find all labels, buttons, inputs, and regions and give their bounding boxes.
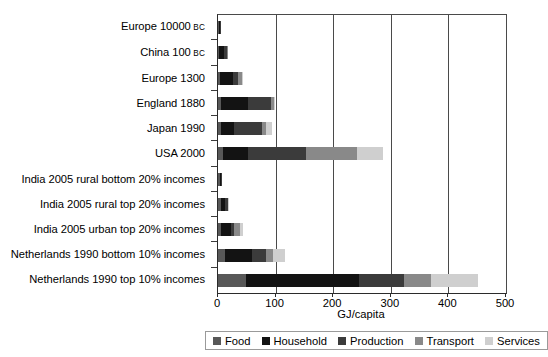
category-label: India 2005 urban top 20% incomes bbox=[34, 223, 205, 236]
bar-segment-transport bbox=[234, 223, 241, 236]
bar-row bbox=[218, 173, 506, 186]
bar-segment-services bbox=[273, 249, 285, 262]
category-axis-labels: Europe 10000 BCChina 100 BCEurope 1300En… bbox=[0, 14, 211, 292]
category-label-era: BC bbox=[191, 49, 205, 58]
x-axis: 0100200300400500 bbox=[217, 293, 505, 309]
stacked-bar bbox=[218, 21, 221, 34]
stacked-bar bbox=[218, 173, 222, 186]
bar-segment-services bbox=[266, 122, 272, 135]
bar-segment-production bbox=[252, 249, 266, 262]
category-label: USA 2000 bbox=[155, 147, 205, 160]
legend-label: Food bbox=[225, 335, 251, 347]
legend-swatch-icon bbox=[213, 337, 221, 345]
bar-segment-transport bbox=[306, 147, 358, 160]
bar-segment-services bbox=[242, 72, 243, 85]
category-label: India 2005 rural bottom 20% incomes bbox=[21, 173, 205, 186]
bar-segment-transport bbox=[266, 249, 273, 262]
category-label: Europe 1300 bbox=[141, 72, 205, 85]
bar-row bbox=[218, 198, 506, 211]
category-label-text: England 1880 bbox=[137, 97, 205, 109]
legend-item-production[interactable]: Production bbox=[338, 335, 404, 347]
bar-segment-production bbox=[234, 122, 262, 135]
bar-row bbox=[218, 223, 506, 236]
bar-segment-transport bbox=[227, 46, 228, 59]
bar-segment-household bbox=[221, 122, 234, 135]
legend-label: Household bbox=[274, 335, 328, 347]
category-label: England 1880 bbox=[137, 97, 205, 110]
legend-swatch-icon bbox=[485, 337, 493, 345]
bar-row bbox=[218, 274, 506, 287]
legend-label: Transport bbox=[427, 335, 474, 347]
legend-item-services[interactable]: Services bbox=[485, 335, 540, 347]
stacked-bar bbox=[218, 46, 227, 59]
bar-row bbox=[218, 249, 506, 262]
stacked-bar bbox=[218, 223, 243, 236]
bar-row bbox=[218, 122, 506, 135]
bars-container bbox=[218, 15, 506, 293]
x-axis-title: GJ/capita bbox=[217, 308, 505, 320]
legend-label: Services bbox=[497, 335, 540, 347]
bar-row bbox=[218, 72, 506, 85]
bar-segment-production bbox=[220, 21, 221, 34]
legend-item-household[interactable]: Household bbox=[262, 335, 328, 347]
category-label-text: India 2005 rural top 20% incomes bbox=[40, 198, 205, 210]
legend-label: Production bbox=[350, 335, 404, 347]
stacked-bar bbox=[218, 198, 229, 211]
stacked-bar bbox=[218, 72, 243, 85]
bar-row bbox=[218, 46, 506, 59]
bar-segment-food bbox=[218, 274, 246, 287]
legend-item-transport[interactable]: Transport bbox=[415, 335, 474, 347]
stacked-bar bbox=[218, 274, 478, 287]
legend-swatch-icon bbox=[262, 337, 270, 345]
category-label-text: India 2005 rural bottom 20% incomes bbox=[21, 173, 205, 185]
category-label-text: India 2005 urban top 20% incomes bbox=[34, 223, 205, 235]
stacked-bar bbox=[218, 97, 275, 110]
bar-segment-transport bbox=[404, 274, 430, 287]
bar-segment-production bbox=[248, 97, 271, 110]
category-label: India 2005 rural top 20% incomes bbox=[40, 198, 205, 211]
bar-segment-services bbox=[228, 198, 229, 211]
category-label: Netherlands 1990 top 10% incomes bbox=[29, 273, 205, 286]
bar-row bbox=[218, 21, 506, 34]
category-label-text: USA 2000 bbox=[155, 147, 205, 159]
stacked-bar bbox=[218, 122, 272, 135]
plot-area bbox=[217, 14, 507, 294]
bar-row bbox=[218, 97, 506, 110]
legend-swatch-icon bbox=[415, 337, 423, 345]
category-label-text: Europe 1300 bbox=[141, 72, 205, 84]
bar-segment-household bbox=[223, 147, 248, 160]
chart-legend: FoodHouseholdProductionTransportServices bbox=[205, 331, 548, 350]
bar-row bbox=[218, 147, 506, 160]
bar-segment-services bbox=[431, 274, 478, 287]
category-label-era: BC bbox=[191, 23, 205, 32]
category-label-text: Netherlands 1990 top 10% incomes bbox=[29, 273, 205, 285]
bar-segment-production bbox=[248, 147, 306, 160]
bar-segment-food bbox=[218, 249, 225, 262]
category-label-text: China 100 bbox=[140, 46, 191, 58]
category-label: Europe 10000 BC bbox=[121, 20, 205, 34]
stacked-bar bbox=[218, 147, 383, 160]
bar-segment-services bbox=[274, 97, 275, 110]
bar-segment-household bbox=[221, 97, 248, 110]
bar-segment-services bbox=[357, 147, 383, 160]
category-label: China 100 BC bbox=[140, 46, 205, 60]
bar-segment-household bbox=[221, 223, 230, 236]
bar-segment-production bbox=[221, 173, 222, 186]
bar-segment-household bbox=[225, 249, 252, 262]
legend-swatch-icon bbox=[338, 337, 346, 345]
category-label-text: Netherlands 1990 bottom 10% incomes bbox=[11, 248, 205, 260]
legend-item-food[interactable]: Food bbox=[213, 335, 251, 347]
bar-segment-production bbox=[359, 274, 404, 287]
category-label: Japan 1990 bbox=[147, 122, 205, 135]
bar-segment-services bbox=[240, 223, 243, 236]
bar-segment-household bbox=[220, 72, 233, 85]
stacked-bar bbox=[218, 249, 285, 262]
category-label: Netherlands 1990 bottom 10% incomes bbox=[11, 248, 205, 261]
category-label-text: Europe 10000 bbox=[121, 20, 191, 32]
bar-segment-household bbox=[246, 274, 359, 287]
category-label-text: Japan 1990 bbox=[147, 122, 205, 134]
